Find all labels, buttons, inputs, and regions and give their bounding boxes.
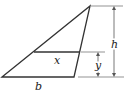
label-x: x — [54, 54, 61, 67]
triangle — [2, 6, 90, 77]
triangle-diagram: x b h y — [0, 0, 128, 93]
label-h: h — [111, 38, 118, 51]
label-b: b — [35, 80, 42, 93]
label-y: y — [94, 59, 102, 72]
